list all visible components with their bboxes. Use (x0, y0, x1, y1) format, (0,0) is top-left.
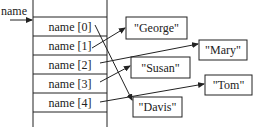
string-box-george: "George" (126, 17, 187, 39)
string-value: "Davis" (139, 100, 177, 114)
string-box-mary: "Mary" (199, 40, 247, 60)
array-row-4: name [4] (49, 96, 92, 110)
array-row-2: name [2] (49, 58, 92, 72)
array-rows: name [0] name [1] name [2] name [3] name… (49, 20, 92, 110)
string-box-tom: "Tom" (205, 75, 252, 95)
array-row-1: name [1] (49, 39, 92, 53)
array-row-0: name [0] (49, 20, 92, 34)
array-row-3: name [3] (49, 77, 92, 91)
string-box-susan: "Susan" (131, 57, 190, 78)
string-box-davis: "Davis" (133, 97, 182, 117)
variable-label: name (1, 4, 27, 18)
array-reference-diagram: name name [0] name [1] name [2] name [3]… (0, 0, 253, 127)
string-value: "George" (134, 21, 179, 35)
string-value: "Susan" (141, 61, 180, 75)
string-value: "Tom" (213, 78, 245, 92)
string-value: "Mary" (205, 43, 241, 57)
reference-arrow-1 (92, 28, 125, 48)
